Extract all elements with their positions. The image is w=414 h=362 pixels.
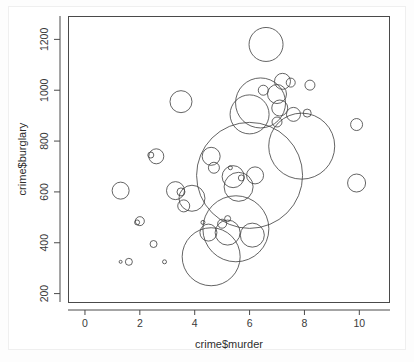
y-axis-title: crime$burglary: [16, 122, 28, 195]
bubble-point: [351, 119, 363, 131]
bubble-point: [258, 85, 268, 95]
bubble-point: [182, 228, 240, 286]
x-axis: 0246810: [68, 310, 390, 329]
bubble-point: [305, 80, 315, 90]
bubble-point: [275, 73, 291, 89]
bubble-point: [163, 260, 167, 264]
bubble-point: [203, 196, 269, 262]
bubble-point: [179, 185, 205, 211]
x-tick-label: 2: [137, 317, 143, 329]
y-axis-ticks: [54, 39, 60, 293]
y-tick-label: 400: [38, 234, 50, 252]
bubble-chart-canvas: 0246810 20040060080010001200 crime$murde…: [0, 0, 414, 362]
x-tick-label: 8: [302, 317, 308, 329]
bubble-point: [150, 241, 157, 248]
bubble-point: [238, 175, 244, 181]
bubble-point: [230, 95, 269, 134]
x-tick-label: 0: [82, 317, 88, 329]
y-axis: 20040060080010001200: [38, 16, 60, 302]
y-tick-label: 600: [38, 183, 50, 201]
bubble-point: [200, 224, 217, 241]
bubble-point: [240, 223, 264, 247]
bubble-chart-figure: 0246810 20040060080010001200 crime$murde…: [0, 0, 414, 362]
bubble-point: [249, 27, 283, 61]
x-tick-label: 10: [353, 317, 365, 329]
bubble-series-layer: [112, 27, 365, 285]
y-tick-label: 800: [38, 132, 50, 150]
y-tick-label: 1000: [38, 78, 50, 102]
bubble-point: [112, 182, 129, 199]
y-axis-tick-labels: 20040060080010001200: [38, 28, 50, 303]
bubble-point: [236, 78, 286, 128]
bubble-point: [149, 149, 164, 164]
x-axis-title: crime$murder: [195, 338, 263, 350]
bubble-point: [125, 258, 132, 265]
y-tick-label: 200: [38, 285, 50, 303]
bubble-point: [135, 217, 144, 226]
x-axis-ticks: [85, 310, 359, 315]
bubble-point: [170, 91, 192, 113]
bubble-point: [247, 167, 264, 184]
bubble-point: [222, 166, 244, 188]
x-tick-label: 6: [247, 317, 253, 329]
x-tick-label: 4: [192, 317, 198, 329]
plot-panel-border: [69, 17, 390, 303]
y-tick-label: 1200: [38, 28, 50, 52]
bubble-point: [208, 162, 219, 173]
bubble-point: [178, 200, 190, 212]
bubble-point: [348, 174, 366, 192]
bubble-point: [119, 260, 122, 263]
bubble-point: [269, 113, 335, 179]
x-axis-tick-labels: 0246810: [82, 317, 365, 329]
